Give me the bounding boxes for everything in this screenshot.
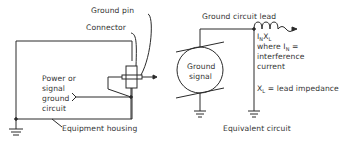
impedance-text: = lead impedance: [265, 84, 339, 93]
caption-equivalent-circuit: Equivalent circuit: [223, 124, 291, 134]
label-power-line3: ground: [42, 94, 69, 104]
label-equipment-housing: Equipment housing: [62, 124, 137, 134]
label-lead-impedance: XL = lead impedance: [257, 84, 339, 96]
label-ground-signal-2: signal: [189, 72, 212, 82]
label-interference: interference: [257, 52, 305, 62]
where-text: where I: [257, 42, 286, 51]
label-ground-circuit-lead: Ground circuit lead: [202, 12, 276, 22]
label-power-line2: signal: [42, 84, 65, 94]
label-current: current: [257, 62, 285, 72]
grounding-diagram: Ground pin Connector Power or signal gro…: [0, 0, 346, 149]
where-equals: =: [290, 42, 299, 51]
label-ground-signal-1: Ground: [187, 62, 216, 72]
subscript-l: L: [269, 36, 272, 42]
label-power-line4: circuit: [42, 104, 66, 114]
label-ground-pin: Ground pin: [91, 6, 134, 16]
label-power-line1: Power or: [42, 74, 76, 84]
connector-pin: [122, 75, 142, 79]
label-connector: Connector: [86, 23, 126, 33]
connector-body: [126, 66, 137, 88]
